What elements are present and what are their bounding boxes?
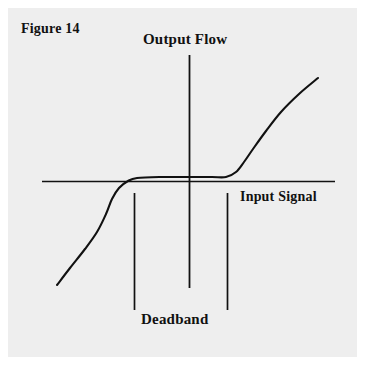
x-axis-label: Input Signal <box>240 189 317 205</box>
deadband-label: Deadband <box>141 311 208 328</box>
y-axis-label: Output Flow <box>143 31 227 48</box>
figure-caption: Figure 14 <box>21 21 80 37</box>
figure-page: Figure 14 Output Flow Input Signal Deadb… <box>0 0 365 365</box>
